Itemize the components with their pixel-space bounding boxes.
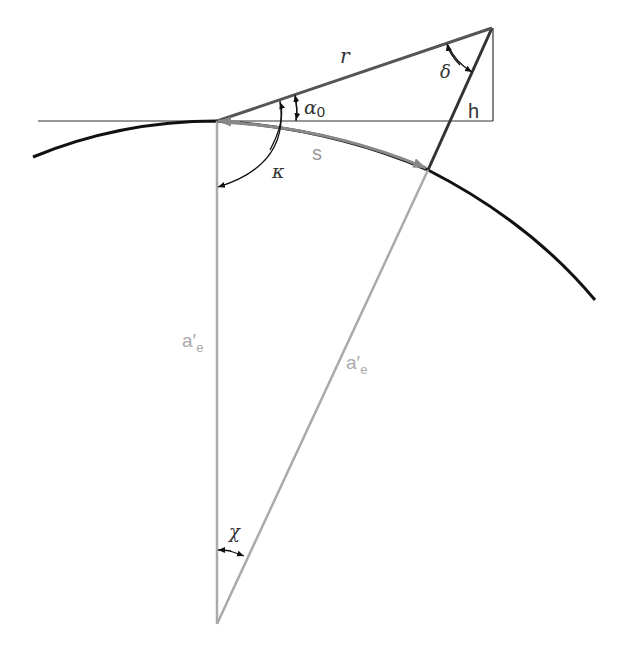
label-ae-right: a′e <box>346 352 367 377</box>
chi-angle-arc <box>230 551 244 556</box>
label-s: s <box>312 142 322 164</box>
arc-length-s <box>222 122 426 168</box>
label-chi: χ <box>227 521 241 542</box>
height-segment-h <box>428 28 492 170</box>
label-h: h <box>468 100 479 122</box>
radar-geometry-diagram: r δ h α0 s κ a′e a′e χ <box>0 0 621 651</box>
earth-radius-slanted <box>217 170 428 624</box>
delta-angle-arc <box>448 45 472 72</box>
label-r: r <box>340 44 351 68</box>
label-alpha0: α0 <box>304 96 325 120</box>
label-kappa: κ <box>271 160 285 182</box>
label-delta: δ <box>440 61 451 82</box>
label-ae-left: a′e <box>182 330 203 355</box>
